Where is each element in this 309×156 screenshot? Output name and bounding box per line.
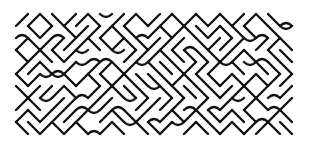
maze-segment	[148, 74, 160, 86]
maze-segment	[64, 38, 76, 50]
maze-segment	[88, 74, 100, 86]
maze-segment	[100, 110, 112, 122]
maze-segment	[244, 26, 256, 38]
maze-segment	[280, 38, 292, 50]
maze-segment	[136, 122, 148, 134]
maze-segment	[244, 50, 256, 62]
maze-segment	[28, 62, 40, 74]
maze-segment	[184, 47, 196, 50]
maze-segment	[208, 62, 220, 74]
maze-segment	[64, 98, 76, 110]
maze-segment	[244, 74, 256, 86]
maze-segment	[220, 62, 232, 65]
maze-segment	[28, 110, 40, 122]
maze-segment	[268, 26, 280, 38]
maze-segment	[208, 107, 220, 110]
maze-segment	[112, 38, 124, 50]
maze-segment	[40, 14, 52, 26]
maze-segment	[232, 110, 244, 122]
maze-segment	[28, 50, 40, 62]
maze-segment	[232, 74, 244, 86]
maze-segment	[208, 74, 220, 86]
maze-segment	[100, 98, 112, 110]
maze-segment	[232, 122, 244, 134]
maze-segment	[280, 23, 292, 26]
maze-segment	[160, 110, 172, 122]
maze-segment	[124, 86, 136, 98]
maze-segment	[232, 38, 244, 50]
maze-segment	[184, 86, 196, 98]
maze-segment	[220, 110, 232, 122]
maze-segment	[244, 38, 256, 41]
maze-segment	[184, 26, 196, 38]
maze-segment	[196, 122, 208, 134]
maze-segment	[100, 74, 112, 86]
maze-segment	[256, 62, 268, 74]
maze-segment	[64, 74, 76, 86]
maze-segment	[112, 122, 124, 134]
maze-segment	[196, 86, 208, 98]
maze-segment	[112, 14, 124, 26]
maze-segment	[172, 62, 184, 74]
maze-segment	[76, 74, 88, 86]
maze-segment	[172, 74, 184, 86]
maze-segment	[280, 62, 292, 74]
maze-segment	[196, 26, 208, 38]
maze-segment	[40, 62, 52, 74]
maze-segment	[220, 86, 232, 98]
maze-segment	[184, 50, 196, 62]
maze-segment	[76, 110, 88, 122]
maze-segment	[244, 86, 256, 98]
maze-segment	[64, 50, 76, 62]
maze-segment	[88, 131, 100, 134]
maze-segment	[160, 122, 172, 134]
maze-segment	[40, 110, 52, 122]
maze-segment	[88, 59, 100, 62]
maze-segment	[40, 26, 52, 38]
maze-segment	[256, 86, 268, 98]
maze-segment	[136, 74, 148, 86]
maze-segment	[196, 74, 208, 86]
maze-segment	[124, 122, 136, 125]
maze-segment	[28, 26, 40, 38]
maze-segment	[16, 110, 28, 122]
maze-segment	[52, 71, 64, 74]
maze-segment	[88, 38, 100, 50]
maze-pattern-graphic	[0, 0, 309, 156]
maze-segment	[112, 86, 124, 98]
maze-segment	[280, 110, 292, 122]
maze-segment	[64, 86, 76, 98]
maze-segment	[124, 98, 136, 101]
maze-segment	[232, 14, 244, 26]
maze-segment	[124, 74, 136, 86]
maze-segment	[16, 86, 28, 98]
maze-segment	[232, 86, 244, 98]
maze-segment	[220, 14, 232, 26]
maze-segment	[100, 59, 112, 62]
maze-segment	[76, 26, 88, 38]
maze-segment	[268, 74, 280, 86]
maze-segment	[256, 35, 268, 38]
maze-segment	[124, 110, 136, 122]
maze-segment	[124, 14, 136, 26]
maze-segment	[208, 50, 220, 62]
maze-segment	[196, 38, 208, 50]
maze-segment	[256, 98, 268, 110]
maze-segment	[148, 122, 160, 134]
maze-segment	[232, 50, 244, 62]
maze-segment	[52, 98, 64, 110]
maze-segment	[28, 14, 40, 26]
maze-segment	[64, 26, 76, 38]
maze-segment	[256, 74, 268, 86]
maze-segment	[148, 14, 160, 26]
maze-segment	[124, 38, 136, 50]
maze-segment	[148, 98, 160, 110]
maze-segment	[76, 38, 88, 50]
maze-segment	[220, 26, 232, 38]
maze-segment	[256, 119, 268, 122]
maze-segment	[100, 62, 112, 74]
maze-segment	[136, 38, 148, 50]
maze-segment	[16, 38, 28, 50]
maze-segment	[244, 110, 256, 122]
maze-segment	[160, 50, 172, 62]
